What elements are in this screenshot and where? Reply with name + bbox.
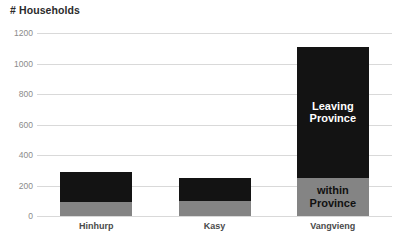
bar-segment[interactable]: [179, 201, 251, 216]
y-tick-label: 200: [19, 181, 33, 191]
bar-group[interactable]: [179, 33, 251, 216]
y-tick-label: 800: [19, 89, 33, 99]
bar-segment-label: within Province: [310, 184, 356, 209]
gridline: [37, 216, 392, 217]
y-tick-label: 0: [28, 211, 33, 221]
y-tick-label: 400: [19, 150, 33, 160]
bar-group[interactable]: [60, 33, 132, 216]
y-axis-tick-labels: 020040060080010001200: [0, 33, 33, 216]
bar-chart: # Households 020040060080010001200 withi…: [0, 0, 408, 246]
y-tick-label: 1200: [14, 28, 33, 38]
bar-segment[interactable]: within Province: [297, 178, 369, 216]
y-tick-label: 1000: [14, 59, 33, 69]
x-axis-category-labels: HinhurpKasyVangvieng: [37, 221, 392, 241]
bar-segment[interactable]: [60, 172, 132, 203]
bars-layer: within ProvinceLeaving Province: [37, 33, 392, 216]
bar-segment[interactable]: [60, 202, 132, 216]
y-tick-label: 600: [19, 120, 33, 130]
bar-segment-label: Leaving Province: [310, 100, 356, 125]
bar-segment[interactable]: [179, 178, 251, 201]
category-label: Hinhurp: [37, 221, 155, 231]
bar-group[interactable]: within ProvinceLeaving Province: [297, 33, 369, 216]
bar-segment[interactable]: Leaving Province: [297, 47, 369, 178]
chart-title: # Households: [10, 4, 80, 16]
category-label: Vangvieng: [274, 221, 392, 231]
category-label: Kasy: [155, 221, 273, 231]
